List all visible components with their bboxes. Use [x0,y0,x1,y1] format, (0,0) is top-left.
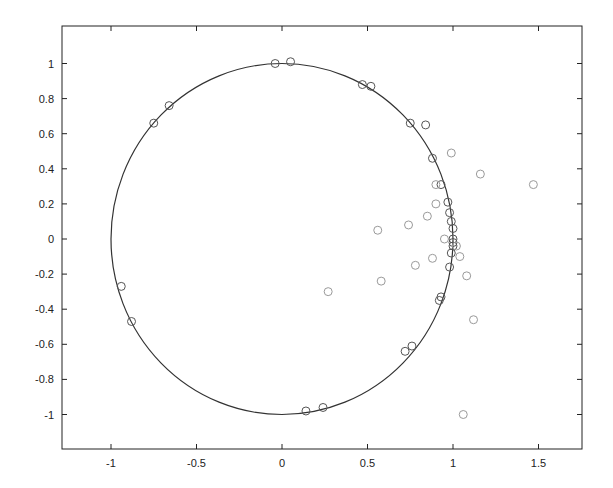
data-point [446,263,454,271]
data-point [463,272,471,280]
plot-area [111,58,537,419]
data-point [117,282,125,290]
data-point [428,254,436,262]
data-point [432,200,440,208]
x-tick-label: 1 [450,457,456,469]
data-point [319,403,327,411]
y-tick-label: -0.6 [35,338,54,350]
unit-circle-curve [111,64,453,415]
data-point [287,58,295,66]
y-tick-label: 0.4 [39,163,54,175]
x-axis: -1-0.500.511.5 [106,26,546,469]
x-tick-label: -1 [106,457,116,469]
data-point [324,288,332,296]
data-point [405,221,413,229]
y-tick-label: 0.6 [39,128,54,140]
data-point [411,261,419,269]
scatter-chart: -1-0.500.511.5 10.80.60.40.20-0.2-0.4-0.… [0,0,613,488]
y-axis: 10.80.60.40.20-0.2-0.4-0.6-0.8-1 [35,58,582,421]
data-point [302,407,310,415]
data-point [440,235,448,243]
series-0 [117,58,457,415]
y-tick-label: -0.4 [35,303,54,315]
data-point [374,226,382,234]
data-point [447,249,455,257]
data-point [432,181,440,189]
y-tick-label: -0.2 [35,268,54,280]
y-tick-label: 0.8 [39,93,54,105]
x-tick-label: 1.5 [531,457,546,469]
y-tick-label: 0.2 [39,198,54,210]
data-point [446,209,454,217]
y-tick-label: -0.8 [35,373,54,385]
data-point [422,121,430,129]
data-point [423,212,431,220]
x-tick-label: 0 [279,457,285,469]
x-tick-label: -0.5 [187,457,206,469]
data-point [444,198,452,206]
data-point [401,347,409,355]
data-point [377,277,385,285]
data-point [529,181,537,189]
data-point [165,102,173,110]
y-tick-label: 0 [48,233,54,245]
data-point [470,316,478,324]
data-point [476,170,484,178]
x-tick-label: 0.5 [360,457,375,469]
y-tick-label: 1 [48,58,54,70]
y-tick-label: -1 [44,409,54,421]
axes-frame [62,26,582,449]
data-point [459,411,467,419]
data-point [447,149,455,157]
data-point [408,342,416,350]
data-point [456,253,464,261]
series-1 [324,149,537,418]
